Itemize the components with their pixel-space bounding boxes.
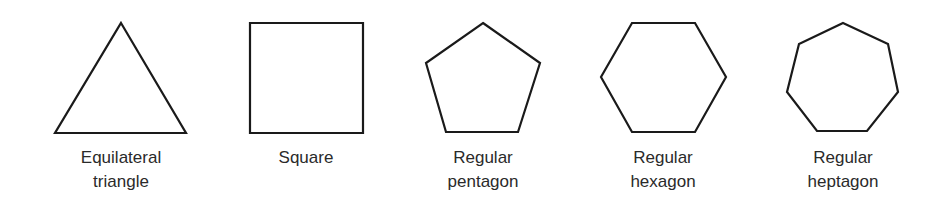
label-line-1: Regular <box>763 146 923 170</box>
equilateral-triangle-shape <box>55 23 186 133</box>
regular-hexagon-shape <box>601 23 726 132</box>
square-label: Square <box>226 146 386 170</box>
label-line-1: Square <box>226 146 386 170</box>
regular-heptagon-shape <box>787 23 898 131</box>
regular-hexagon-label: Regular hexagon <box>583 146 743 194</box>
label-line-2: triangle <box>41 170 201 194</box>
label-line-1: Regular <box>583 146 743 170</box>
label-line-1: Regular <box>403 146 563 170</box>
equilateral-triangle-label: Equilateral triangle <box>41 146 201 194</box>
label-line-2: heptagon <box>763 170 923 194</box>
label-line-2: pentagon <box>403 170 563 194</box>
regular-pentagon-shape <box>426 23 540 132</box>
regular-heptagon-label: Regular heptagon <box>763 146 923 194</box>
label-line-2: hexagon <box>583 170 743 194</box>
label-line-1: Equilateral <box>41 146 201 170</box>
regular-pentagon-label: Regular pentagon <box>403 146 563 194</box>
square-shape <box>250 23 363 133</box>
